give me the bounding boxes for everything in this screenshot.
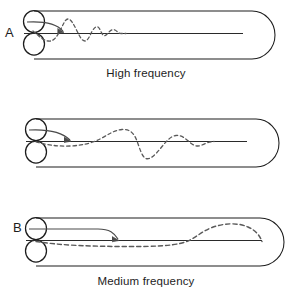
panel-c-diagram xyxy=(0,200,292,302)
rounded-end-tube-icon xyxy=(36,218,284,266)
double-coil-source-icon xyxy=(24,11,45,56)
long-curved-arrow-icon xyxy=(29,229,119,242)
panel-high-frequency: A High frequency xyxy=(0,0,292,100)
double-coil-source-icon xyxy=(26,119,47,164)
panel-medium-frequency: B Medium frequency xyxy=(0,100,292,200)
panel-a-diagram xyxy=(0,0,292,100)
figure-root: A High frequency B xyxy=(0,0,292,302)
decaying-high-frequency-wave-icon xyxy=(33,19,126,41)
panel-low-frequency: C Low frequency xyxy=(0,200,292,302)
rounded-end-tube-icon xyxy=(34,11,275,59)
rounded-end-tube-icon xyxy=(36,119,279,167)
caption-high-frequency: High frequency xyxy=(0,68,292,80)
low-frequency-wave-icon xyxy=(36,224,262,247)
medium-frequency-wave-icon xyxy=(36,129,214,158)
double-coil-source-icon xyxy=(26,218,47,263)
panel-letter-a: A xyxy=(5,26,14,39)
panel-b-diagram xyxy=(0,100,292,200)
